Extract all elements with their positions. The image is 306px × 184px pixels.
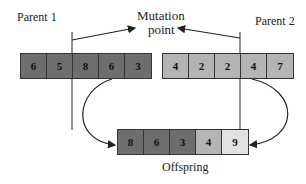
gene-cell: 6	[99, 54, 125, 78]
gene-cell: 3	[125, 54, 151, 78]
parent-2-chromosome: 4 2 2 4 7	[162, 53, 294, 79]
gene-cell: 9	[222, 130, 248, 154]
gene-cell: 7	[267, 54, 293, 78]
offspring-chromosome: 8 6 3 4 9	[117, 129, 249, 155]
gene-cell: 3	[170, 130, 196, 154]
parent-1-chromosome: 6 5 8 6 3	[20, 53, 152, 79]
offspring-label: Offspring	[162, 160, 208, 175]
gene-cell: 2	[189, 54, 215, 78]
parent-2-label: Parent 2	[255, 14, 295, 29]
gene-cell: 5	[47, 54, 73, 78]
gene-cell: 6	[144, 130, 170, 154]
gene-cell: 4	[241, 54, 267, 78]
gene-cell: 2	[215, 54, 241, 78]
gene-cell: 4	[196, 130, 222, 154]
gene-cell: 6	[21, 54, 47, 78]
mutation-label-line2: point	[148, 22, 175, 38]
gene-cell: 4	[163, 54, 189, 78]
parent-1-label: Parent 1	[17, 10, 57, 25]
gene-cell: 8	[73, 54, 99, 78]
gene-cell: 8	[118, 130, 144, 154]
